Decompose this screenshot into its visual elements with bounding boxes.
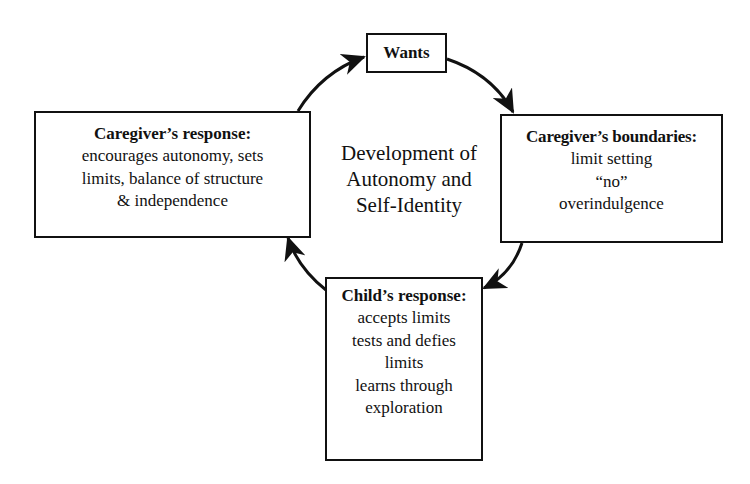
center-label-line: Autonomy and	[314, 166, 504, 192]
arrow-response-to-wants	[298, 57, 364, 111]
caregiver-boundaries-line: limit setting	[502, 148, 721, 171]
child-response-line: limits	[327, 352, 481, 375]
caregiver-response-title: Caregiver’s response:	[36, 123, 309, 145]
child-response-line: learns through	[327, 375, 481, 398]
center-label-line: Development of	[314, 140, 504, 166]
node-child-response: Child’s response: accepts limits tests a…	[325, 277, 483, 461]
arrow-child-to-response	[288, 238, 326, 290]
caregiver-boundaries-line: overindulgence	[502, 193, 721, 216]
caregiver-response-line: & independence	[36, 190, 309, 213]
child-response-line: accepts limits	[327, 307, 481, 330]
node-caregiver-response: Caregiver’s response: encourages autonom…	[34, 111, 311, 238]
arrow-wants-to-boundaries	[447, 59, 513, 112]
child-response-line: tests and defies	[327, 330, 481, 353]
caregiver-response-line: encourages autonomy, sets	[36, 145, 309, 168]
node-caregiver-boundaries: Caregiver’s boundaries: limit setting “n…	[500, 114, 723, 243]
node-wants-title: Wants	[368, 42, 445, 64]
node-wants: Wants	[366, 33, 447, 73]
center-label-line: Self-Identity	[314, 192, 504, 218]
child-response-title: Child’s response:	[327, 285, 481, 307]
caregiver-response-line: limits, balance of structure	[36, 168, 309, 191]
caregiver-boundaries-line: “no”	[502, 171, 721, 194]
child-response-line: exploration	[327, 397, 481, 420]
center-label: Development of Autonomy and Self-Identit…	[314, 140, 504, 218]
arrow-boundaries-to-child	[484, 243, 522, 288]
caregiver-boundaries-title: Caregiver’s boundaries:	[502, 126, 721, 148]
